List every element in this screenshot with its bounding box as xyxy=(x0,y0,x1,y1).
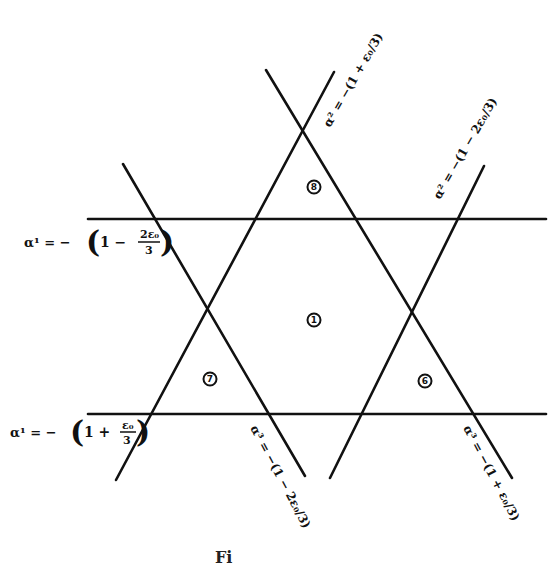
svg-text:): ) xyxy=(160,224,174,259)
svg-text:8: 8 xyxy=(311,182,317,192)
svg-text:2ε₀: 2ε₀ xyxy=(140,228,159,241)
svg-text:α¹ = −: α¹ = − xyxy=(24,235,71,250)
line-diag-left-down xyxy=(123,164,305,476)
svg-text:1 +: 1 + xyxy=(84,424,110,440)
svg-text:3: 3 xyxy=(123,434,131,447)
svg-text:3: 3 xyxy=(145,244,153,257)
region-label-1: 1 xyxy=(308,314,321,327)
svg-text:α¹ = −: α¹ = − xyxy=(10,425,57,440)
svg-text:ε₀: ε₀ xyxy=(122,419,134,432)
region-label-7: 7 xyxy=(204,373,217,386)
svg-text:6: 6 xyxy=(422,376,428,386)
label-alpha1-top: α¹ = − ( 1 − 2ε₀ 3 ) xyxy=(24,224,174,259)
label-alpha1-bottom: α¹ = − ( 1 + ε₀ 3 ) xyxy=(10,414,150,449)
svg-text:): ) xyxy=(136,414,150,449)
svg-text:7: 7 xyxy=(207,374,213,384)
svg-text:1 −: 1 − xyxy=(100,234,126,250)
region-label-8: 8 xyxy=(308,181,321,194)
region-label-6: 6 xyxy=(419,375,432,388)
figure-caption: Fi xyxy=(215,548,232,567)
svg-text:1: 1 xyxy=(311,315,317,325)
label-alpha3-center: α³ = −(1 − 2ε₀/3) xyxy=(247,423,313,531)
svg-text:(: ( xyxy=(86,224,100,259)
label-alpha2-right: α² = −(1 − 2ε₀/3) xyxy=(430,95,499,201)
svg-text:(: ( xyxy=(70,414,84,449)
label-alpha3-right: α³ = −(1 + ε₀/3) xyxy=(460,423,522,523)
